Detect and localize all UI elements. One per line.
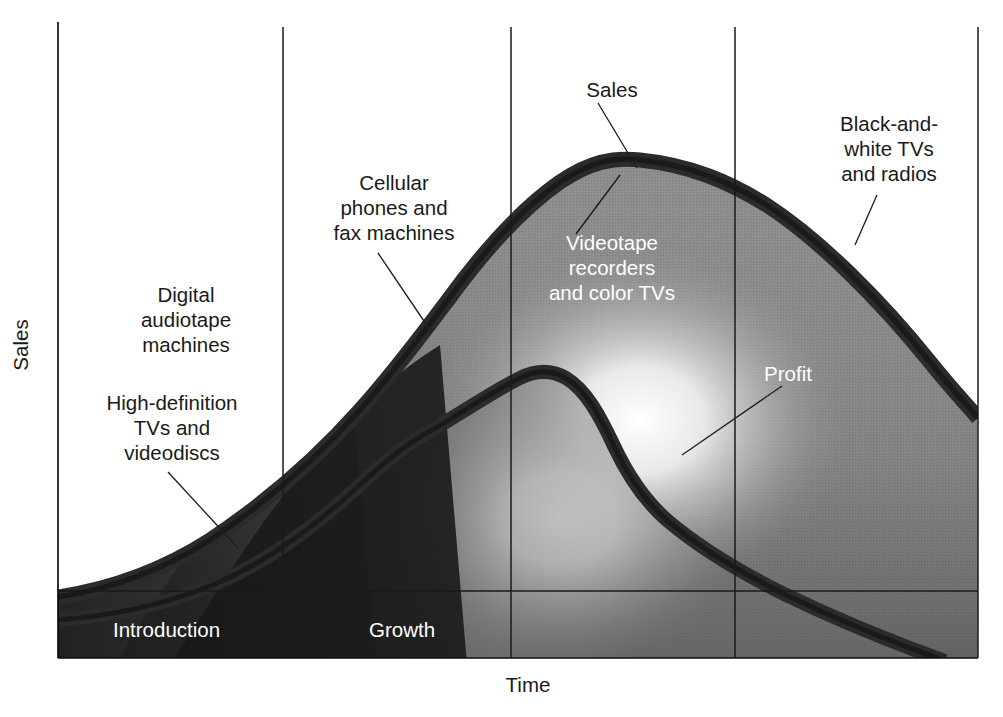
stage-label-introduction: Introduction — [113, 618, 220, 641]
annotation-line: Cellular — [359, 171, 429, 194]
annotation-line: TVs and — [134, 416, 210, 439]
chart-canvas: Digital audiotape machines High-definiti… — [0, 0, 1003, 717]
annotation-line: white TVs — [843, 137, 934, 160]
annotation-line: fax machines — [334, 221, 455, 244]
annotation-line: High-definition — [106, 391, 237, 414]
stage-label-growth: Growth — [369, 618, 435, 641]
annotation-line: audiotape — [141, 308, 231, 331]
annotation-line: videodiscs — [124, 441, 220, 464]
sales-curve-label: Sales — [586, 78, 637, 101]
leader-cellular-phones — [378, 253, 430, 330]
annotation-digital-audiotape: Digital audiotape machines — [141, 283, 231, 356]
product-life-cycle-figure: Digital audiotape machines High-definiti… — [0, 0, 1003, 717]
x-axis-label: Time — [506, 673, 551, 696]
annotation-line: Videotape — [566, 231, 658, 254]
annotation-line: Black-and- — [840, 112, 938, 135]
annotation-line: Digital — [158, 283, 215, 306]
annotation-cellular-phones: Cellular phones and fax machines — [334, 171, 455, 244]
annotation-line: and radios — [841, 162, 937, 185]
profit-curve-label: Profit — [764, 362, 812, 385]
annotation-line: and color TVs — [549, 281, 675, 304]
annotation-black-and-white: Black-and- white TVs and radios — [840, 112, 938, 185]
annotation-line: recorders — [569, 256, 656, 279]
annotation-high-definition: High-definition TVs and videodiscs — [106, 391, 237, 464]
annotation-line: phones and — [340, 196, 447, 219]
annotation-line: machines — [142, 333, 230, 356]
y-axis-label: Sales — [9, 319, 32, 370]
leader-black-and-white — [855, 195, 877, 245]
